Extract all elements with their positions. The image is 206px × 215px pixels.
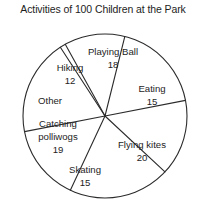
slice-label-other: Other — [38, 95, 63, 106]
slice-value-text: 19 — [53, 144, 64, 155]
slice-value-text: 15 — [80, 177, 91, 188]
slice-label-text: Other — [38, 95, 63, 106]
slice-label-text: Playing Ball — [88, 46, 138, 57]
slice-value-text: 20 — [137, 152, 148, 163]
slice-label-text-line1: Catching — [39, 118, 77, 129]
slice-label-text: Eating — [138, 83, 165, 94]
slice-label-text: Skating — [69, 164, 101, 175]
slice-label-text: Hiking — [57, 62, 84, 73]
slice-value-text: 15 — [147, 96, 158, 107]
slice-value-text: 18 — [108, 59, 119, 70]
pie-chart-svg: Playing Ball 18 Eating 15 Flying kites 2… — [0, 0, 206, 215]
pie-chart-figure: Activities of 100 Children at the Park P… — [0, 0, 206, 215]
slice-label-text: Flying kites — [118, 139, 166, 150]
slice-value-text: 12 — [65, 75, 76, 86]
slice-label-text-line2: polliwogs — [38, 131, 78, 142]
